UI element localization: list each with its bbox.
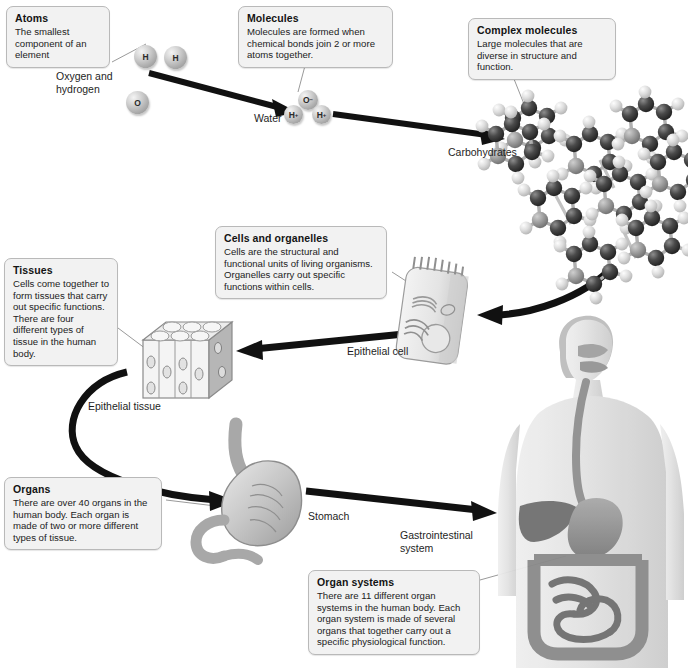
- diagram-canvas: H H O O− H+ H+: [0, 0, 688, 668]
- label-epithelial-cell: Epithelial cell: [347, 345, 408, 358]
- callout-title: Organs: [13, 483, 153, 496]
- callout-organs[interactable]: Organs There are over 40 organs in the h…: [4, 477, 162, 550]
- callout-title: Molecules: [247, 12, 384, 25]
- callout-title: Complex molecules: [477, 24, 607, 37]
- callout-title: Tissues: [13, 264, 109, 277]
- label-epithelial-tissue: Epithelial tissue: [88, 400, 161, 413]
- callout-organ-systems[interactable]: Organ systems There are 11 different org…: [308, 570, 480, 655]
- callout-body: There are 11 different organ systems in …: [317, 590, 471, 648]
- callout-body: Molecules are formed when chemical bonds…: [247, 26, 384, 61]
- callout-title: Cells and organelles: [224, 232, 378, 245]
- callout-title: Organ systems: [317, 576, 471, 589]
- callout-body: Large molecules that are diverse in stru…: [477, 38, 607, 73]
- callout-body: The smallest component of an element: [15, 26, 101, 61]
- label-carbohydrates: Carbohydrates: [448, 146, 517, 159]
- label-oxygen-and-hydrogen: Oxygen and hydrogen: [56, 70, 113, 96]
- callout-tissues[interactable]: Tissues Cells come together to form tiss…: [4, 258, 118, 366]
- callout-complex-molecules[interactable]: Complex molecules Large molecules that a…: [468, 18, 616, 80]
- callout-title: Atoms: [15, 12, 101, 25]
- callout-body: Cells are the structural and functional …: [224, 246, 378, 292]
- callout-body: There are over 40 organs in the human bo…: [13, 497, 153, 543]
- label-water: Water: [254, 112, 282, 125]
- callout-cells-and-organelles[interactable]: Cells and organelles Cells are the struc…: [215, 226, 387, 299]
- label-stomach: Stomach: [308, 510, 349, 523]
- callout-molecules[interactable]: Molecules Molecules are formed when chem…: [238, 6, 393, 68]
- label-gastrointestinal-system: Gastrointestinal system: [400, 529, 473, 555]
- callout-body: Cells come together to form tissues that…: [13, 278, 109, 359]
- callout-atoms[interactable]: Atoms The smallest component of an eleme…: [6, 6, 110, 68]
